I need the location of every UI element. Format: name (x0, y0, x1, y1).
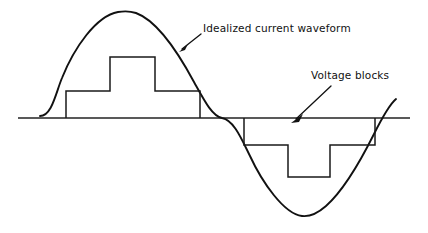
current-waveform-leader-line (182, 34, 201, 49)
voltage-blocks-leader-line (296, 86, 331, 119)
waveform-diagram: Idealized current waveform Voltage block… (0, 0, 428, 233)
current-waveform-label: Idealized current waveform (203, 22, 351, 34)
figure-container: Idealized current waveform Voltage block… (0, 0, 428, 233)
sine-curve (40, 11, 396, 216)
positive-voltage-block (66, 57, 200, 118)
voltage-blocks-label: Voltage blocks (311, 69, 389, 81)
